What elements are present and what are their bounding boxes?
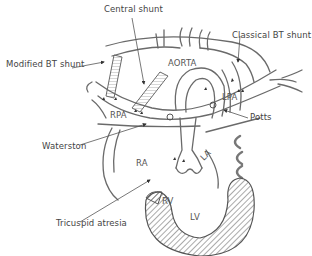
head-vessel — [156, 30, 164, 48]
label-ra: RA — [136, 158, 148, 168]
label-rv: RV — [162, 196, 173, 206]
label-aorta: AORTA — [168, 58, 197, 68]
ascending-aorta — [175, 68, 224, 116]
label-tricuspid-atresia: Tricuspid atresia — [56, 218, 127, 228]
pulmonary-trunk — [176, 118, 182, 168]
label-lv: LV — [190, 212, 200, 222]
label-central-shunt: Central shunt — [104, 4, 163, 14]
central-shunt-tube — [132, 72, 168, 112]
label-potts: Potts — [250, 112, 272, 122]
modified-bt-shunt-tube — [106, 55, 122, 98]
label-classical-bt-shunt: Classical BT shunt — [232, 30, 311, 40]
label-rpa: RPA — [110, 110, 127, 120]
label-modified-bt-shunt: Modified BT shunt — [6, 59, 84, 69]
aorta-arch-inner — [112, 47, 180, 56]
label-waterston: Waterston — [42, 141, 86, 151]
label-lpa: LPA — [222, 92, 237, 102]
right-atrium-wall — [103, 128, 118, 200]
head-vessel — [199, 30, 210, 50]
